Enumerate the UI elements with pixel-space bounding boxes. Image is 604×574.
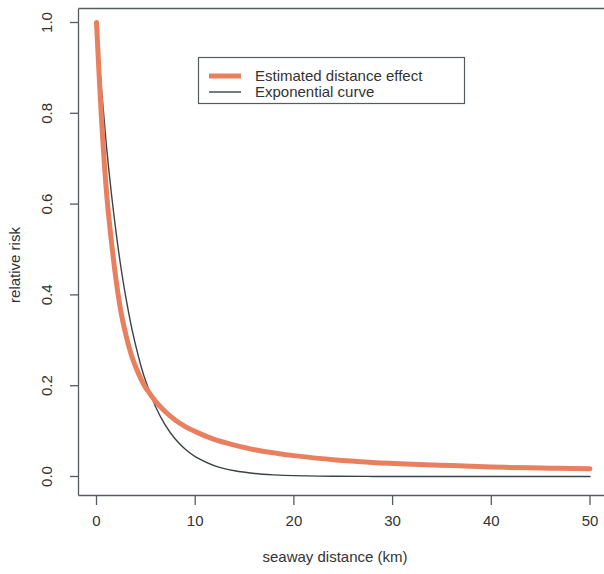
y-tick-label: 0.4: [38, 284, 55, 305]
x-tick-label: 50: [582, 512, 599, 529]
y-tick-label: 0.0: [38, 466, 55, 487]
x-tick-label: 30: [384, 512, 401, 529]
chart-legend: Estimated distance effect Exponential cu…: [199, 58, 465, 104]
y-axis-tick-labels: 0.0 0.2 0.4 0.6 0.8 1.0: [38, 12, 55, 487]
chart-figure: 0.0 0.2 0.4 0.6 0.8 1.0 relative risk 0 …: [0, 0, 604, 574]
x-tick-label: 0: [92, 512, 100, 529]
x-tick-label: 20: [286, 512, 303, 529]
y-tick-label: 0.8: [38, 103, 55, 124]
x-axis-ticks: [97, 496, 591, 506]
x-tick-label: 10: [187, 512, 204, 529]
x-axis-title: seaway distance (km): [262, 548, 407, 565]
chart-svg: 0.0 0.2 0.4 0.6 0.8 1.0 relative risk 0 …: [0, 0, 604, 574]
legend-label-estimated: Estimated distance effect: [255, 67, 423, 84]
x-axis-tick-labels: 0 10 20 30 40 50: [92, 512, 598, 529]
y-tick-label: 0.6: [38, 194, 55, 215]
y-tick-label: 1.0: [38, 12, 55, 33]
y-axis-title: relative risk: [6, 227, 23, 303]
y-axis-ticks: [70, 23, 79, 477]
legend-label-exponential: Exponential curve: [255, 83, 374, 100]
y-tick-label: 0.2: [38, 375, 55, 396]
x-tick-label: 40: [483, 512, 500, 529]
